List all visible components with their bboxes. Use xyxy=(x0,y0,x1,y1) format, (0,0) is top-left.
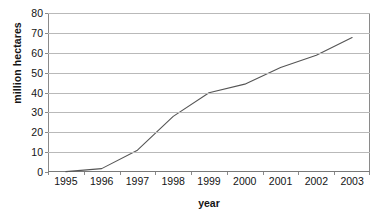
y-tick-mark xyxy=(45,112,48,113)
x-tick-mark xyxy=(120,172,121,175)
gridline xyxy=(48,73,370,74)
x-tick-mark xyxy=(155,172,156,175)
y-tick-label: 10 xyxy=(17,147,43,158)
gridline xyxy=(48,152,370,153)
y-tick-mark xyxy=(45,93,48,94)
gridline xyxy=(48,112,370,113)
gridline xyxy=(48,93,370,94)
gridline xyxy=(48,53,370,54)
x-axis-title: year xyxy=(48,197,370,209)
gridline xyxy=(48,33,370,34)
y-tick-mark xyxy=(45,73,48,74)
x-tick-mark xyxy=(84,172,85,175)
x-tick-mark xyxy=(48,172,49,175)
x-tick-mark xyxy=(369,172,370,175)
plot-area xyxy=(48,13,370,172)
x-tick-mark xyxy=(227,172,228,175)
x-tick-label: 2003 xyxy=(329,176,375,187)
y-tick-mark xyxy=(45,53,48,54)
gridline xyxy=(48,132,370,133)
x-tick-mark xyxy=(263,172,264,175)
x-tick-mark xyxy=(298,172,299,175)
y-tick-mark xyxy=(45,132,48,133)
y-tick-mark xyxy=(45,33,48,34)
x-tick-mark xyxy=(334,172,335,175)
line-chart: million hectares 01020304050607080 19951… xyxy=(0,0,383,222)
y-tick-mark xyxy=(45,152,48,153)
x-tick-mark xyxy=(191,172,192,175)
y-tick-label: 0 xyxy=(17,167,43,178)
x-axis-tick-labels: 199519961997199819992000200120022003 xyxy=(48,176,370,192)
y-tick-label: 20 xyxy=(17,127,43,138)
gridline xyxy=(48,13,370,14)
y-axis-title: million hectares xyxy=(11,3,23,123)
y-tick-mark xyxy=(45,13,48,14)
